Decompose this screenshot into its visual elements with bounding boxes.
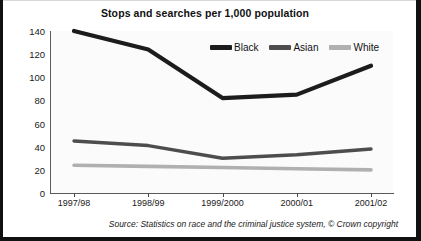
x-axis-tick-label: 2001/02 (355, 198, 388, 208)
legend-label: White (353, 42, 379, 53)
legend-swatch-black (210, 45, 232, 50)
y-axis-tick-label: 120 (5, 49, 45, 60)
x-axis-tick-label: 1999/2000 (201, 198, 244, 208)
chart-figure: Stops and searches per 1,000 population … (0, 0, 421, 241)
legend-entry-white[interactable]: White (329, 42, 379, 53)
legend-swatch-asian (269, 45, 291, 50)
y-axis-tick-label: 80 (5, 95, 45, 106)
plot-area (50, 31, 393, 194)
y-axis-tick-label: 20 (5, 164, 45, 175)
y-axis-tick-label: 140 (5, 26, 45, 37)
x-axis-tick-mark (148, 193, 149, 197)
legend-label: Black (234, 42, 258, 53)
x-axis-tick-label: 1998/99 (132, 198, 165, 208)
x-axis-tick-label: 2000/01 (280, 198, 313, 208)
x-axis-tick-label: 1997/98 (58, 198, 91, 208)
y-axis-tick-label: 60 (5, 118, 45, 129)
legend-entry-asian[interactable]: Asian (269, 42, 318, 53)
x-axis-tick-mark (371, 193, 372, 197)
source-note: Source: Statistics on race and the crimi… (0, 219, 404, 229)
y-axis-line (50, 31, 51, 194)
y-axis-tick-labels: 140120100806040200 (0, 31, 45, 194)
figure-border-right (416, 0, 421, 241)
legend-swatch-white (329, 45, 351, 50)
y-axis-tick-label: 0 (5, 188, 45, 199)
x-axis-tick-mark (223, 193, 224, 197)
legend-entry-black[interactable]: Black (210, 42, 258, 53)
y-axis-tick-label: 100 (5, 72, 45, 83)
y-axis-tick-label: 40 (5, 141, 45, 152)
figure-border-bottom (0, 237, 421, 241)
x-axis-tick-mark (297, 193, 298, 197)
clipped-top-text (80, 0, 380, 6)
legend-label: Asian (293, 42, 318, 53)
figure-border-left (0, 0, 3, 241)
chart-title: Stops and searches per 1,000 population (0, 7, 410, 19)
x-axis-tick-mark (74, 193, 75, 197)
chart-legend: BlackAsianWhite (210, 42, 379, 53)
